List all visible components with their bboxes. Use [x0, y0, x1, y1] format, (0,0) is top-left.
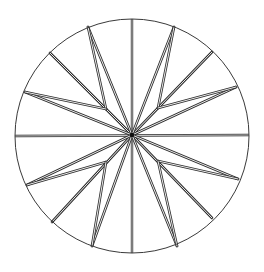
- star-diagram: [0, 0, 264, 272]
- diagonal-ray-lower-right: [132, 135, 212, 218]
- diagonal-ray-upper-right: [132, 52, 212, 135]
- star-point-top-right-edge: [158, 27, 174, 108]
- compass-star-figure: [0, 0, 264, 272]
- star-point-left-upper-edge: [25, 92, 106, 109]
- diagonal-ray-lower-left: [52, 135, 132, 222]
- diagonal-ray-upper-left: [50, 53, 132, 135]
- center-point: [130, 133, 134, 137]
